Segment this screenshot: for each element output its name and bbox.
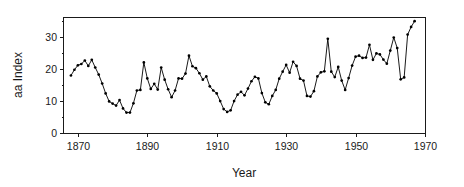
y-axis-title: aa Index [11,52,25,98]
x-axis-title: Year [232,166,256,180]
data-point [104,92,107,95]
data-point [215,92,218,95]
data-point [125,111,128,114]
data-point [306,95,309,98]
data-point [97,73,100,76]
data-point [285,64,288,67]
data-point [250,80,253,83]
data-point [281,70,284,73]
data-point [170,96,173,99]
data-point [389,49,392,52]
data-point [288,71,291,74]
data-point [233,100,236,103]
data-point [101,82,104,85]
data-point [247,87,250,90]
data-point [382,58,385,61]
data-point [70,74,73,77]
data-point [385,62,388,65]
data-point [156,88,159,91]
data-point [323,70,326,73]
data-point [73,68,76,71]
data-point [403,76,406,79]
data-point [365,56,368,59]
data-point [271,95,274,98]
data-point [264,101,267,104]
data-point [87,65,90,68]
y-tick-label: 0 [51,127,57,139]
data-point [208,85,211,88]
data-point [222,108,225,111]
data-point [313,90,316,93]
data-point [254,75,257,78]
data-point [229,109,232,112]
data-point [326,37,329,40]
data-point [302,79,305,82]
x-tick-label: 1930 [275,140,299,152]
data-point [212,89,215,92]
data-point [177,77,180,80]
data-point [358,54,361,57]
data-point [354,55,357,58]
data-point [410,26,413,29]
data-point [174,89,177,92]
data-point [198,72,201,75]
data-point [396,47,399,50]
aa-index-line-chart: 0102030 187018901910193019501970 aa Inde… [0,0,464,187]
data-point [406,33,409,36]
data-point [368,43,371,46]
data-point [236,93,239,96]
data-point [153,82,156,85]
data-point [299,77,302,80]
data-point [351,64,354,67]
data-point [330,70,333,73]
data-point [195,67,198,70]
data-point [80,63,83,66]
data-point [320,71,323,74]
plot-frame [64,18,426,134]
data-point [167,88,170,91]
data-point [115,104,118,107]
data-point [340,79,343,82]
data-point [181,77,184,80]
data-point [83,59,86,62]
data-point [257,77,260,80]
data-point [188,54,191,57]
data-point [111,102,114,105]
data-point [205,75,208,78]
data-point [108,100,111,103]
y-tick-label: 20 [45,63,57,75]
data-point [118,99,121,102]
data-point [261,92,264,95]
data-point [240,90,243,93]
x-tick-label: 1870 [67,140,91,152]
series-line-aa-index [71,21,415,112]
data-point [149,88,152,91]
x-tick-label: 1890 [136,140,160,152]
data-point [274,89,277,92]
data-point [160,66,163,69]
data-point [413,20,416,23]
data-point [191,65,194,68]
data-point [90,59,93,62]
data-point [122,107,125,110]
data-point [309,95,312,98]
x-axis-tick-labels: 187018901910193019501970 [67,140,438,152]
data-point [243,94,246,97]
data-point [344,89,347,92]
data-point [337,66,340,69]
data-point [184,72,187,75]
data-point [163,78,166,81]
data-point [202,78,205,81]
data-point [94,66,97,69]
data-point [333,76,336,79]
chart-figure: 0102030 187018901910193019501970 aa Inde… [0,0,464,187]
series-markers-aa-index [70,20,416,114]
data-point [278,77,281,80]
x-tick-label: 1910 [206,140,230,152]
y-tick-label: 10 [45,95,57,107]
data-point [347,77,350,80]
y-axis-tick-labels: 0102030 [45,31,57,139]
data-point [136,89,139,92]
data-point [316,75,319,78]
data-point [77,64,80,67]
